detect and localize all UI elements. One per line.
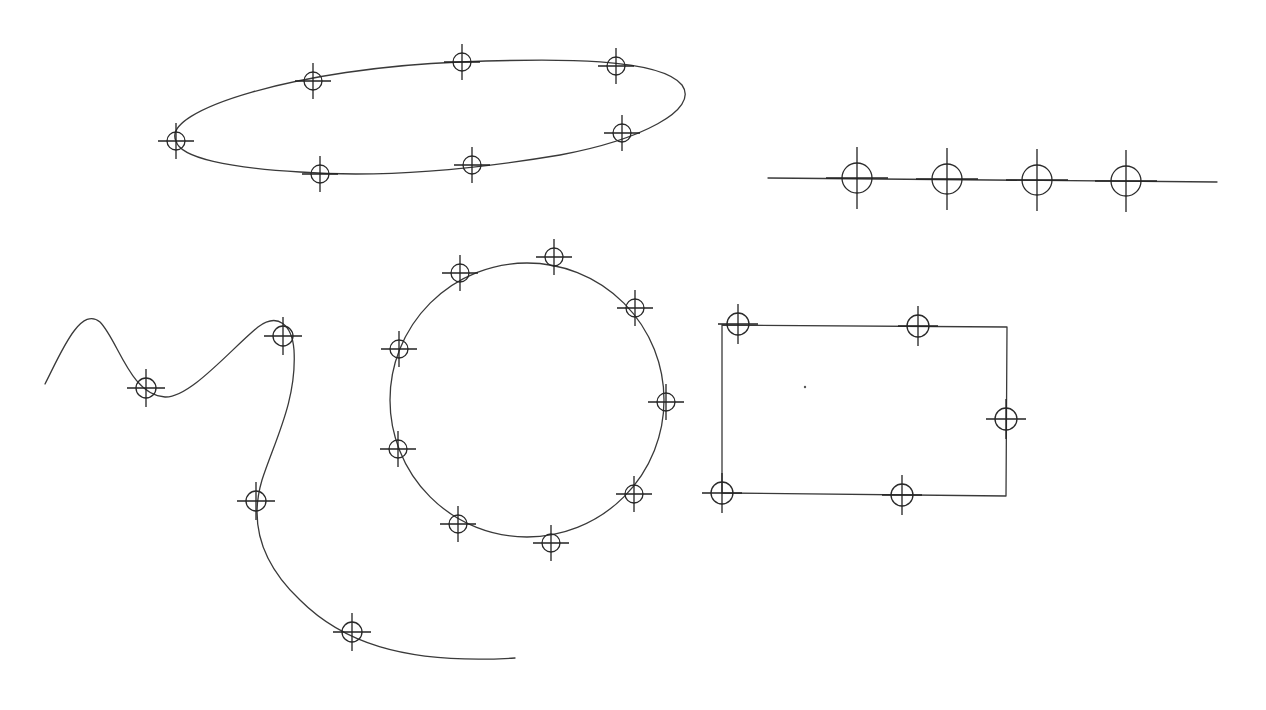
stray-dot	[804, 386, 806, 388]
crosshair-marker-icon	[533, 525, 569, 561]
crosshair-marker-icon	[381, 331, 417, 367]
crosshair-marker-icon	[882, 475, 922, 515]
crosshair-marker-icon	[718, 304, 758, 344]
crosshair-marker-icon	[916, 148, 978, 210]
dots-layer	[804, 386, 806, 388]
crosshair-marker-icon	[444, 44, 480, 80]
ellipse-shape	[175, 60, 685, 174]
crosshair-marker-icon	[616, 476, 652, 512]
crosshair-marker-icon	[295, 63, 331, 99]
crosshair-marker-icon	[333, 613, 371, 651]
crosshair-marker-icon	[702, 473, 742, 513]
crosshair-marker-icon	[454, 147, 490, 183]
crosshair-marker-icon	[898, 306, 938, 346]
crosshair-marker-icon	[264, 317, 302, 355]
crosshair-marker-icon	[598, 48, 634, 84]
crosshair-marker-icon	[536, 239, 572, 275]
crosshair-marker-icon	[442, 255, 478, 291]
circle-shape	[390, 263, 664, 537]
drawing-canvas	[0, 0, 1266, 710]
crosshair-marker-icon	[986, 399, 1026, 439]
crosshair-marker-icon	[617, 290, 653, 326]
crosshair-marker-icon	[1006, 149, 1068, 211]
crosshair-marker-icon	[1095, 150, 1157, 212]
markers-layer	[127, 44, 1157, 651]
crosshair-marker-icon	[302, 156, 338, 192]
shapes-layer	[45, 60, 1217, 659]
curve-shape	[45, 319, 515, 660]
crosshair-marker-icon	[380, 431, 416, 467]
rectangle-shape	[722, 325, 1007, 496]
crosshair-marker-icon	[237, 482, 275, 520]
crosshair-marker-icon	[440, 506, 476, 542]
crosshair-marker-icon	[648, 384, 684, 420]
crosshair-marker-icon	[604, 115, 640, 151]
crosshair-marker-icon	[826, 147, 888, 209]
